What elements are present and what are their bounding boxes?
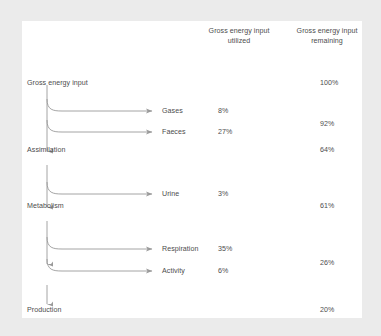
utilized-value-activity: 6% bbox=[218, 267, 228, 276]
remaining-value-after-gases: 92% bbox=[320, 120, 334, 129]
remaining-value-gross-energy-input: 100% bbox=[320, 79, 338, 88]
column-header-utilized: Gross energy input utilized bbox=[196, 27, 282, 46]
loss-label-urine: Urine bbox=[162, 190, 179, 199]
diagram-panel: Gross energy input utilized Gross energy… bbox=[22, 21, 362, 318]
utilized-value-gases: 8% bbox=[218, 107, 228, 116]
column-header-utilized-line2: utilized bbox=[196, 37, 282, 47]
branch-faeces bbox=[47, 120, 152, 132]
loss-label-activity: Activity bbox=[162, 267, 185, 276]
loss-label-gases: Gases bbox=[162, 107, 183, 116]
screenshot-root: Gross energy input utilized Gross energy… bbox=[0, 0, 381, 336]
column-header-remaining-line1: Gross energy input bbox=[284, 27, 370, 37]
branch-respiration bbox=[47, 237, 152, 249]
column-header-remaining: Gross energy input remaining bbox=[284, 27, 370, 46]
stage-label-production: Production bbox=[27, 306, 61, 315]
flow-arrows bbox=[22, 21, 362, 318]
loss-label-respiration: Respiration bbox=[162, 245, 198, 254]
stage-label-metabolism: Metabolism bbox=[27, 202, 64, 211]
stage-label-assimilation: Assimilation bbox=[27, 146, 65, 155]
remaining-value-assimilation: 64% bbox=[320, 146, 334, 155]
branch-activity bbox=[47, 259, 152, 271]
column-header-utilized-line1: Gross energy input bbox=[196, 27, 282, 37]
remaining-value-production: 20% bbox=[320, 306, 334, 315]
branch-urine bbox=[47, 182, 152, 194]
branch-gases bbox=[47, 99, 152, 111]
utilized-value-urine: 3% bbox=[218, 190, 228, 199]
utilized-value-faeces: 27% bbox=[218, 128, 232, 137]
stage-label-gross-energy-input: Gross energy input bbox=[27, 79, 88, 88]
column-header-remaining-line2: remaining bbox=[284, 37, 370, 47]
loss-label-faeces: Faeces bbox=[162, 128, 186, 137]
remaining-value-after-respiration: 26% bbox=[320, 259, 334, 268]
remaining-value-metabolism: 61% bbox=[320, 202, 334, 211]
utilized-value-respiration: 35% bbox=[218, 245, 232, 254]
